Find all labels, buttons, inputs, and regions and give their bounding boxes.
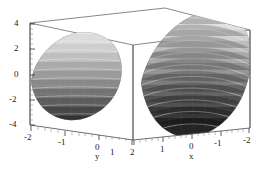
x-tick-label-0: 0: [189, 142, 194, 151]
y-tick-label-1: 1: [110, 148, 115, 157]
y-tick-label-minus-2: -2: [24, 133, 32, 142]
y-tick-label-minus-1: -1: [58, 138, 66, 147]
z-tick-label-0: 0: [14, 70, 19, 79]
y-axis-label: y: [95, 152, 100, 161]
x-tick-label-1: 1: [160, 145, 165, 154]
surface-plot-3d-figure: 4 2 0 -2 -4 -2 -1 0 1 y 2 1 0 -1 -2 x: [0, 0, 266, 169]
plot-canvas: [0, 0, 266, 169]
z-tick-label-minus-4: -4: [9, 120, 17, 129]
x-tick-label-minus-1: -1: [214, 139, 222, 148]
z-tick-label-minus-2: -2: [9, 95, 17, 104]
x-tick-label-2: 2: [130, 148, 135, 157]
z-tick-label-4: 4: [14, 19, 19, 28]
x-tick-label-minus-2: -2: [243, 136, 251, 145]
x-axis-label: x: [189, 152, 194, 161]
z-tick-label-2: 2: [14, 44, 19, 53]
